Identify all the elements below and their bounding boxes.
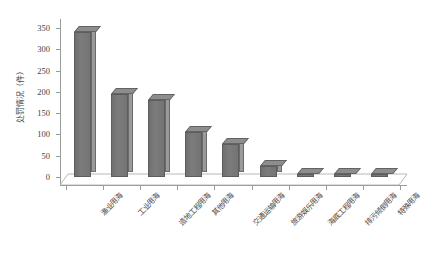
- x-axis-label: 渔业用海: [97, 190, 125, 218]
- y-tick-label: 200: [37, 87, 50, 97]
- bar-top: [334, 168, 361, 174]
- x-axis-labels: 渔业用海工业用海造地工程用海其他用海交通运输用海旅游娱乐用海海底工程用海排污倾倒…: [60, 190, 407, 260]
- bar-side: [91, 27, 96, 172]
- y-tick: 0: [56, 177, 60, 178]
- bar-top: [297, 168, 324, 174]
- y-tick-label: 350: [37, 23, 50, 33]
- y-tick-label: 150: [37, 108, 50, 118]
- x-axis-label: 交通运输用海: [250, 190, 287, 227]
- x-axis-label: 海底工程用海: [324, 190, 361, 227]
- bar-face: [222, 144, 239, 177]
- bar-face: [260, 166, 277, 177]
- bar-top: [74, 26, 101, 32]
- bar-face: [334, 174, 351, 177]
- bar-face: [371, 174, 388, 177]
- y-axis-title-text: 处罚情况（件）: [14, 40, 25, 150]
- bar-side: [165, 95, 170, 172]
- bar-face: [297, 174, 314, 177]
- bar-chart: 处罚情况（件） 050100150200250300350 渔业用海工业用海造地…: [0, 0, 432, 266]
- bar-side: [128, 89, 133, 172]
- x-axis-line: [60, 185, 407, 186]
- y-axis-title: 处罚情况（件）: [14, 0, 25, 40]
- bar-top: [260, 160, 287, 166]
- y-tick-label: 300: [37, 44, 50, 54]
- y-tick-label: 250: [37, 66, 50, 76]
- bar-top: [185, 126, 212, 132]
- bar-top: [371, 168, 398, 174]
- bar-series: [60, 19, 407, 177]
- y-tick-label: 50: [42, 151, 51, 161]
- bar-face: [148, 100, 165, 177]
- bar-top: [222, 138, 249, 144]
- x-axis-label: 旅游娱乐用海: [287, 190, 324, 227]
- bar-face: [185, 132, 202, 177]
- bar-face: [111, 94, 128, 177]
- plot-area: 050100150200250300350: [60, 19, 407, 186]
- y-tick-label: 100: [37, 129, 50, 139]
- bar-top: [111, 88, 138, 94]
- x-axis-label: 工业用海: [134, 190, 162, 218]
- y-tick-label: 0: [46, 172, 50, 182]
- x-axis-label: 排污倾倒用海: [361, 190, 398, 227]
- x-axis-label: 特殊用海: [394, 190, 422, 218]
- bar-top: [148, 94, 175, 100]
- bar-side: [202, 127, 207, 172]
- bar-face: [74, 32, 91, 177]
- x-axis-label: 其他用海: [209, 190, 237, 218]
